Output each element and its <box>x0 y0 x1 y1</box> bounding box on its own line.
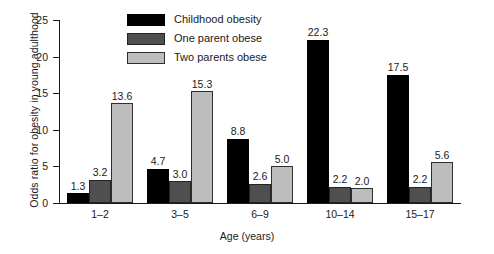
legend-label: Two parents obese <box>174 52 267 63</box>
x-axis-category-label: 6–9 <box>220 209 300 220</box>
bar-value-label: 2.0 <box>346 176 378 187</box>
bar <box>191 91 213 203</box>
y-axis-tick-label: 25 <box>28 15 48 26</box>
y-axis-tick-label: 5 <box>28 161 48 172</box>
legend-swatch-icon <box>127 14 165 26</box>
bar-value-label: 15.3 <box>186 79 218 90</box>
x-axis-category-label: 15–17 <box>380 209 460 220</box>
bar <box>329 187 351 203</box>
bar <box>431 162 453 203</box>
y-axis-tick: 15 <box>0 93 59 94</box>
bar-group: 22.32.22.0 <box>307 20 373 203</box>
y-axis-title: Odds ratio for obesity in young adulthoo… <box>28 10 40 210</box>
legend-item: Two parents obese <box>127 49 267 66</box>
bar-value-label: 17.5 <box>382 62 414 73</box>
bar-chart-figure: Odds ratio for obesity in young adulthoo… <box>0 0 494 254</box>
chart-legend: Childhood obesityOne parent obeseTwo par… <box>127 11 267 68</box>
bar-group: 1.33.213.6 <box>67 20 133 203</box>
bar <box>89 180 111 203</box>
bar-value-label: 5.0 <box>266 154 298 165</box>
y-axis-tick-label: 20 <box>28 52 48 63</box>
y-axis-tick: 25 <box>0 20 59 21</box>
y-axis-tick: 10 <box>0 130 59 131</box>
x-axis-line <box>59 203 461 204</box>
legend-label: One parent obese <box>174 33 262 44</box>
y-axis-tick-label: 15 <box>28 88 48 99</box>
bar <box>67 193 89 203</box>
x-axis-category-label: 1–2 <box>60 209 140 220</box>
x-axis-category-label: 10–14 <box>300 209 380 220</box>
x-axis-category-label: 3–5 <box>140 209 220 220</box>
y-axis-tick: 0 <box>0 203 59 204</box>
bar-value-label: 13.6 <box>106 91 138 102</box>
bar-value-label: 22.3 <box>302 27 334 38</box>
bar <box>111 103 133 203</box>
y-axis-tick: 5 <box>0 166 59 167</box>
bar <box>409 187 431 203</box>
legend-item: One parent obese <box>127 30 267 47</box>
legend-swatch-icon <box>127 33 165 45</box>
bar-value-label: 8.8 <box>222 126 254 137</box>
bar <box>249 184 271 203</box>
legend-label: Childhood obesity <box>174 14 261 25</box>
bar <box>271 166 293 203</box>
y-axis-tick-label: 10 <box>28 125 48 136</box>
bar <box>351 188 373 203</box>
bar-value-label: 5.6 <box>426 150 458 161</box>
y-axis-tick: 20 <box>0 57 59 58</box>
legend-swatch-icon <box>127 52 165 64</box>
y-axis-tick-label: 0 <box>28 198 48 209</box>
bar-value-label: 4.7 <box>142 156 174 167</box>
x-axis-title: Age (years) <box>0 230 494 242</box>
bar-group: 17.52.25.6 <box>387 20 453 203</box>
legend-item: Childhood obesity <box>127 11 267 28</box>
bar <box>169 181 191 203</box>
